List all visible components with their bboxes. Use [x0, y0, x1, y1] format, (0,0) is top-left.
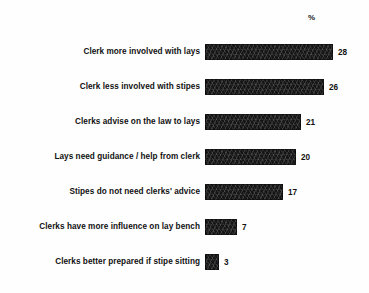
bar-category-label: Stipes do not need clerks' advice: [0, 186, 200, 197]
bar-track: 3: [205, 254, 219, 270]
bar-category-label: Clerk less involved with stipes: [0, 81, 200, 92]
table-row: Clerks advise on the law to lays 21: [0, 104, 369, 139]
bar-rows: Clerk more involved with lays 28 Clerk l…: [0, 34, 369, 279]
bar-track: 20: [205, 149, 296, 165]
bar-category-label: Clerks better prepared if stipe sitting: [0, 256, 200, 267]
bar-segment: [205, 254, 219, 270]
bar-category-label: Clerk more involved with lays: [0, 46, 200, 57]
table-row: Clerk more involved with lays 28: [0, 34, 369, 69]
bar-track: 21: [205, 114, 301, 130]
bar-value-label: 7: [242, 221, 247, 232]
bar-segment: [205, 219, 237, 235]
bar-value-label: 28: [338, 46, 347, 57]
table-row: Lays need guidance / help from clerk 20: [0, 139, 369, 174]
table-row: Stipes do not need clerks' advice 17: [0, 174, 369, 209]
table-row: Clerks have more influence on lay bench …: [0, 209, 369, 244]
bar-segment: [205, 184, 283, 200]
bar-track: 26: [205, 79, 324, 95]
bar-category-label: Lays need guidance / help from clerk: [0, 151, 200, 162]
table-row: Clerk less involved with stipes 26: [0, 69, 369, 104]
bar-segment: [205, 79, 324, 95]
bar-segment: [205, 44, 333, 60]
bar-track: 28: [205, 44, 333, 60]
bar-segment: [205, 149, 296, 165]
bar-track: 17: [205, 184, 283, 200]
percent-axis-label: %: [308, 13, 315, 23]
bar-value-label: 3: [224, 256, 229, 267]
bar-value-label: 20: [301, 151, 310, 162]
bar-category-label: Clerks advise on the law to lays: [0, 116, 200, 127]
bar-chart: % Clerk more involved with lays 28 Clerk…: [0, 0, 369, 293]
bar-value-label: 17: [288, 186, 297, 197]
table-row: Clerks better prepared if stipe sitting …: [0, 244, 369, 279]
bar-track: 7: [205, 219, 237, 235]
bar-value-label: 26: [329, 81, 338, 92]
bar-segment: [205, 114, 301, 130]
bar-category-label: Clerks have more influence on lay bench: [0, 221, 200, 232]
bar-value-label: 21: [306, 116, 315, 127]
